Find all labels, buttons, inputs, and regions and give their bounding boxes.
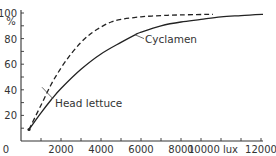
head-lettuce-label: Head lettuce: [55, 97, 122, 109]
y-tick-label: 60: [4, 59, 17, 70]
x-tick-label: 0: [3, 144, 9, 155]
x-tick-label: 12000: [245, 144, 276, 155]
cyclamen-leader-line: [135, 35, 144, 39]
y-unit-label: %: [6, 16, 16, 27]
series-lines: [27, 14, 263, 131]
series-cyclamen: [29, 14, 263, 129]
x-tick-label: 6000: [128, 144, 153, 155]
cyclamen-label: Cyclamen: [145, 33, 197, 45]
head-lettuce-leader-line: [42, 87, 53, 99]
y-tick-label: 20: [4, 110, 17, 121]
x-tick-label: 2000: [48, 144, 73, 155]
x-tick-label: 10000 lux: [188, 144, 238, 155]
start-point-marker: [27, 128, 30, 131]
axes: [21, 10, 263, 141]
y-tick-label: 80: [4, 34, 17, 45]
y-tick-label: 40: [4, 85, 17, 96]
light-response-chart: 0200040006000800010000 lux12000204060801…: [0, 0, 276, 156]
ticks: 0200040006000800010000 lux12000204060801…: [0, 8, 276, 155]
x-tick-label: 4000: [88, 144, 113, 155]
annotations: CyclamenHead lettuce: [42, 33, 197, 108]
series-head-lettuce: [29, 14, 213, 129]
